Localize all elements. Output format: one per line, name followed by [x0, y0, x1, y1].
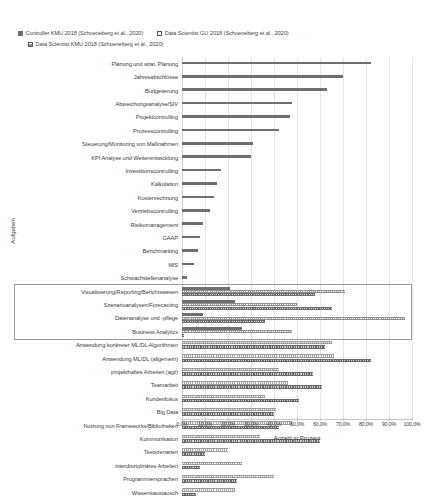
- bar-controller-kmu: [182, 263, 194, 266]
- chart-row: Programmiersprachen: [0, 473, 429, 486]
- bar-data-scientist-kmu: [182, 385, 322, 389]
- bar-data-scientist-kmu: [182, 293, 315, 296]
- chart-row: interdisziplinäres Arbeiten: [0, 459, 429, 472]
- chart-row: Steuerung/Monitoring von Maßnahmen: [0, 137, 429, 150]
- bar-group: [182, 57, 412, 70]
- x-tick-label-30: 30,0%: [244, 421, 258, 427]
- chart-rows: Planung und strat. PlanungJahresabschlüs…: [0, 57, 429, 499]
- category-label: Abweichungsanalyse/SIV: [0, 101, 182, 107]
- chart-row: Vertriebscontrolling: [0, 204, 429, 217]
- bar-controller-kmu: [182, 249, 198, 252]
- category-label: Vertriebscontrolling: [0, 208, 182, 214]
- legend-row-2: Data Scientist KMU 2018 (Schoeneberg et …: [0, 39, 429, 50]
- category-label: projekthaftes Arbeiten (agil): [0, 369, 182, 375]
- legend-label-controller-kmu: Controller KMU 2018 (Schoeneberg et al.,…: [26, 31, 144, 37]
- chart-row: Visualisierung/Reporting/Berichtswesen: [0, 285, 429, 298]
- bar-data-scientist-kmu: [182, 307, 332, 310]
- category-label: Datenanalyse und -pflege: [0, 315, 182, 321]
- x-tick-label-70: 70,0%: [336, 421, 350, 427]
- bar-data-scientist-gu: [182, 381, 288, 384]
- chart-row: Teamarbeit: [0, 379, 429, 392]
- chart-row: Anwendung ML/DL (allgemein): [0, 352, 429, 365]
- bar-group: [182, 486, 412, 499]
- category-label: Projektcontrolling: [0, 114, 182, 120]
- chart-row: Planung und strat. Planung: [0, 57, 429, 70]
- legend-item-data-scientist-kmu[interactable]: Data Scientist KMU 2018 (Schoeneberg et …: [28, 42, 163, 48]
- category-label: KPI Analyse und Weiterentwicklung: [0, 155, 182, 161]
- bar-group: [182, 258, 412, 271]
- bar-controller-kmu: [182, 276, 187, 279]
- category-label: Prozesscontrolling: [0, 128, 182, 134]
- bar-group: [182, 245, 412, 258]
- bar-group: [182, 164, 412, 177]
- chart-legend: Controller KMU 2018 (Schoeneberg et al.,…: [0, 28, 429, 50]
- category-label: Benchmarking: [0, 248, 182, 254]
- bar-data-scientist-gu: [182, 448, 228, 451]
- category-label: Anwendung ML/DL (allgemein): [0, 356, 182, 362]
- bar-data-scientist-gu: [182, 330, 292, 333]
- bar-group: [182, 392, 412, 405]
- bar-group: [182, 339, 412, 352]
- chart-row: Kalkulation: [0, 178, 429, 191]
- bar-data-scientist-kmu: [182, 399, 299, 403]
- chart-row: Anwendung konkreter ML/DL Algorithmen: [0, 339, 429, 352]
- x-tick-label-50: 50,0%: [290, 421, 304, 427]
- chart-row: Kundenfokus: [0, 392, 429, 405]
- chart-row: Risikomanagement: [0, 218, 429, 231]
- bar-data-scientist-gu: [182, 475, 274, 478]
- bar-data-scientist-kmu: [182, 479, 237, 483]
- bar-data-scientist-kmu: [182, 345, 325, 349]
- bar-group: [182, 446, 412, 459]
- bar-group: [182, 204, 412, 217]
- category-label: Budgetierung: [0, 88, 182, 94]
- bar-data-scientist-gu: [182, 341, 332, 344]
- bar-controller-kmu: [182, 209, 210, 212]
- bar-data-scientist-kmu: [182, 466, 200, 470]
- chart-row: Projektcontrolling: [0, 111, 429, 124]
- bar-group: [182, 84, 412, 97]
- bar-data-scientist-kmu: [182, 320, 265, 323]
- bar-group: [182, 231, 412, 244]
- category-label: interdisziplinäres Arbeiten: [0, 463, 182, 469]
- bar-group: [182, 97, 412, 110]
- category-label: Kalkulation: [0, 181, 182, 187]
- legend-item-data-scientist-gu[interactable]: Data Scientist GU 2018 (Schoeneberg et a…: [157, 31, 288, 37]
- x-tick-label-100: 100,0%: [404, 421, 421, 427]
- bar-controller-kmu: [182, 236, 200, 239]
- bar-data-scientist-gu: [182, 462, 242, 465]
- bar-group: [182, 325, 412, 338]
- bar-group: [182, 70, 412, 83]
- bar-data-scientist-kmu: [182, 359, 371, 363]
- bar-data-scientist-kmu: [182, 334, 184, 337]
- category-label: GAAP: [0, 235, 182, 241]
- bar-controller-kmu: [182, 222, 203, 225]
- bar-group: [182, 137, 412, 150]
- bar-data-scientist-gu: [182, 368, 279, 371]
- bar-group: [182, 365, 412, 378]
- category-label: MIS: [0, 262, 182, 268]
- legend-label-data-scientist-gu: Data Scientist GU 2018 (Schoeneberg et a…: [165, 31, 289, 37]
- category-label: Risikomanagement: [0, 222, 182, 228]
- bar-group: [182, 111, 412, 124]
- legend-swatch-open-icon: [157, 31, 162, 36]
- chart-row: Wissensaustausch: [0, 486, 429, 499]
- chart-row: Budgetierung: [0, 84, 429, 97]
- category-label: Teamarbeit: [0, 382, 182, 388]
- legend-item-controller-kmu[interactable]: Controller KMU 2018 (Schoeneberg et al.,…: [18, 31, 143, 37]
- category-label: Szenarioanalysen/Forecasting: [0, 302, 182, 308]
- x-tick-label-80: 80,0%: [359, 421, 373, 427]
- category-label: Schwachstellenanalyse: [0, 275, 182, 281]
- bar-group: [182, 312, 412, 325]
- y-axis-title: Aufgaben: [10, 201, 16, 261]
- legend-label-data-scientist-kmu: Data Scientist KMU 2018 (Schoeneberg et …: [36, 42, 164, 48]
- x-tick-label-20: 20,0%: [221, 421, 235, 427]
- category-label: Jahresabschlüsse: [0, 74, 182, 80]
- category-label: Wissensaustausch: [0, 490, 182, 496]
- bar-data-scientist-gu: [182, 488, 235, 491]
- bar-controller-kmu: [182, 75, 343, 78]
- category-label: Kostenrechnung: [0, 195, 182, 201]
- bar-controller-kmu: [182, 88, 327, 91]
- category-label: Business Analytics: [0, 329, 182, 335]
- chart-row: Schwachstellenanalyse: [0, 272, 429, 285]
- bar-data-scientist-gu: [182, 354, 334, 357]
